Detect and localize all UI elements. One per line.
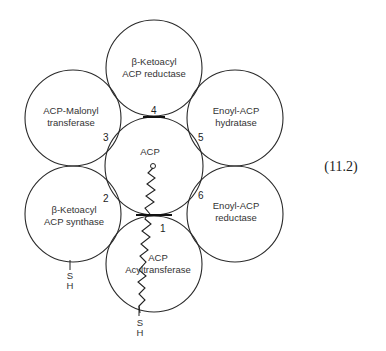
domain-label-lower-left-2: ACP synthase <box>44 216 104 227</box>
domain-label-bottom-2: Acyltransferase <box>125 264 190 275</box>
thiol-h-bottom: H <box>137 327 144 338</box>
contact-number-2: 2 <box>103 193 109 204</box>
contact-number-3: 3 <box>103 132 109 143</box>
thiol-h-synthase: H <box>67 280 74 291</box>
domain-label-upper-right-2: hydratase <box>215 117 257 128</box>
contact-number-6: 6 <box>198 190 204 201</box>
domain-label-center: ACP <box>140 146 160 157</box>
domain-label-upper-right-1: Enoyl-ACP <box>213 105 259 116</box>
equation-number: (11.2) <box>324 159 358 175</box>
domain-label-bottom-1: ACP <box>148 252 168 263</box>
domain-label-top-2: ACP reductase <box>122 68 186 79</box>
domain-label-lower-right-2: reductase <box>215 212 257 223</box>
arm-terminal-circle <box>151 164 156 169</box>
domain-label-upper-left-1: ACP-Malonyl <box>43 105 98 116</box>
domain-label-upper-left-2: transferase <box>47 117 95 128</box>
domain-label-lower-right-1: Enoyl-ACP <box>213 200 259 211</box>
contact-number-5: 5 <box>198 132 204 143</box>
domain-label-lower-left-1: β-Ketoacyl <box>51 204 96 215</box>
diagram-canvas: β-Ketoacyl ACP reductase ACP-Malonyl tra… <box>0 0 386 351</box>
domain-label-top-1: β-Ketoacyl <box>131 56 176 67</box>
pantetheine-arm-wavy-line <box>145 168 155 214</box>
contact-number-4: 4 <box>151 105 157 116</box>
fatty-acid-synthase-diagram: β-Ketoacyl ACP reductase ACP-Malonyl tra… <box>0 0 386 351</box>
contact-number-1: 1 <box>160 223 166 234</box>
